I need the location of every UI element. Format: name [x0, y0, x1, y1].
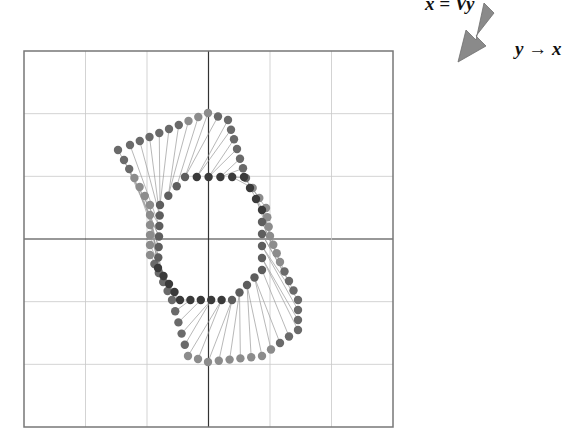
grid [24, 51, 393, 427]
diagram-canvas [0, 0, 585, 447]
equation-label: x = Vy [425, 0, 475, 15]
mapping-label: y → x [515, 38, 561, 60]
